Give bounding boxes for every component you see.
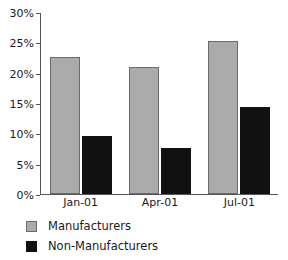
chart-legend: ManufacturersNon-Manufacturers (26, 216, 158, 256)
bars-layer (41, 13, 278, 194)
y-axis-tick-label: 30% (10, 8, 34, 19)
y-axis-tick-mark (36, 13, 40, 14)
y-axis-tick-label: 20% (10, 68, 34, 79)
bar-group (199, 13, 278, 194)
bar-chart-figure: 0%5%10%15%20%25%30% Jan-01Apr-01Jul-01 M… (0, 0, 288, 260)
legend-label: Manufacturers (48, 220, 131, 233)
x-axis-label: Apr-01 (120, 196, 199, 209)
x-axis-label: Jan-01 (41, 196, 120, 209)
bar-apr-01-series-1[interactable] (161, 148, 191, 194)
y-axis-tick-mark (36, 134, 40, 135)
legend-item-0[interactable]: Manufacturers (26, 216, 158, 236)
bar-apr-01-series-0[interactable] (129, 67, 159, 194)
y-axis-tick-mark (36, 104, 40, 105)
bar-jul-01-series-0[interactable] (208, 41, 238, 194)
x-axis-labels: Jan-01Apr-01Jul-01 (41, 196, 279, 209)
bar-group (41, 13, 120, 194)
legend-swatch-icon (26, 221, 37, 232)
bar-jan-01-series-1[interactable] (82, 136, 112, 194)
y-axis-tick-label: 5% (17, 159, 34, 170)
y-axis-tick-mark (36, 74, 40, 75)
bar-jul-01-series-1[interactable] (240, 107, 270, 194)
bar-jan-01-series-0[interactable] (50, 57, 80, 194)
y-axis-tick-mark (36, 43, 40, 44)
y-axis-tick-mark (36, 195, 40, 196)
x-axis-line (40, 194, 278, 195)
legend-label: Non-Manufacturers (48, 240, 158, 253)
legend-swatch-icon (26, 241, 37, 252)
plot-area: 0%5%10%15%20%25%30% (40, 13, 278, 195)
y-axis-tick-label: 25% (10, 38, 34, 49)
legend-item-1[interactable]: Non-Manufacturers (26, 236, 158, 256)
bar-group (120, 13, 199, 194)
y-axis-tick-mark (36, 165, 40, 166)
y-axis-tick-label: 10% (10, 129, 34, 140)
y-axis-tick-label: 15% (10, 99, 34, 110)
y-axis-tick-label: 0% (17, 190, 34, 201)
x-axis-label: Jul-01 (200, 196, 279, 209)
